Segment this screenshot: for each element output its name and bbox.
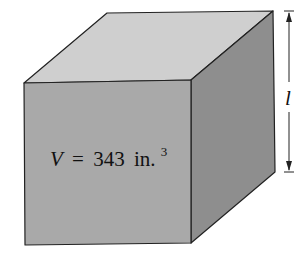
volume-value: 343	[93, 147, 125, 171]
cube-diagram: V = 343 in. 3 l	[0, 0, 307, 258]
volume-exponent: 3	[161, 144, 168, 159]
arrow-down-icon	[286, 161, 292, 171]
dimension-label: l	[285, 86, 291, 110]
arrow-up-icon	[286, 12, 292, 22]
volume-unit: in.	[134, 147, 156, 171]
volume-equals: =	[72, 147, 84, 171]
volume-variable: V	[50, 147, 65, 171]
volume-label: V = 343 in. 3	[50, 144, 167, 171]
